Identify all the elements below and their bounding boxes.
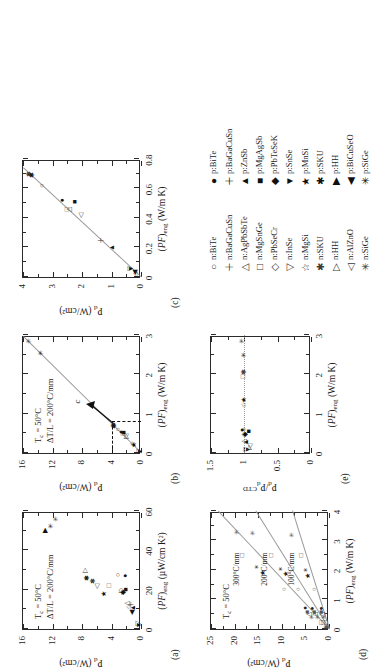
- legend-item[interactable]: ◀p:BiCuSeO: [343, 129, 358, 188]
- legend-marker-icon: ✱: [313, 260, 328, 274]
- legend-marker-icon: ●: [206, 174, 221, 188]
- legend-item[interactable]: ＋n:BaGaCuSn: [221, 215, 236, 274]
- legend-item[interactable]: ☆n:MgSi: [297, 215, 312, 274]
- legend-item[interactable]: ○n:BiTe: [206, 215, 221, 274]
- legend-item[interactable]: ◇n:PbSeCr: [267, 215, 282, 274]
- legend-item[interactable]: ▼p:SnSe: [282, 129, 297, 188]
- legend-item-label: n:MgSi: [298, 234, 313, 260]
- legend-item[interactable]: ✱p:SKU: [312, 129, 327, 188]
- legend-marker-icon: ☆: [298, 260, 313, 274]
- legend-marker-icon: ＋: [222, 260, 237, 274]
- legend-item-label: p:ZnSb: [237, 149, 252, 174]
- legend-item-label: p:BiCuSeO: [343, 134, 358, 174]
- legend-item[interactable]: ◆p:PbTeSeK: [267, 129, 282, 188]
- legend-marker-icon: ▶: [328, 174, 343, 188]
- legend-marker-icon: ▽: [282, 260, 297, 274]
- legend-item-label: n:HH: [328, 241, 343, 260]
- legend-item-label: n:BaGaCuSn: [222, 215, 237, 260]
- legend-item-label: p:BaGaCuSn: [222, 129, 237, 174]
- legend-marker-icon: ＋: [222, 174, 237, 188]
- legend-marker-icon: ▲: [237, 174, 252, 188]
- legend-marker-icon: ◁: [343, 260, 358, 274]
- legend-marker-icon: ✳: [358, 260, 373, 274]
- legend-item[interactable]: ★p:MnSi: [297, 129, 312, 188]
- legend-item-label: n:AgPbSbTe: [237, 216, 252, 260]
- legend-item-label: n:PbSeCr: [267, 227, 282, 260]
- legend-item[interactable]: ▽n:InSe: [282, 215, 297, 274]
- legend-item[interactable]: ■p:MgAgSb: [252, 129, 267, 188]
- legend-marker-icon: ★: [298, 174, 313, 188]
- legend-item[interactable]: ✱n:SKU: [312, 215, 327, 274]
- legend-marker-icon: ■: [252, 174, 267, 188]
- legend-item-label: n:SiGe: [358, 236, 373, 260]
- legend-marker-icon: ▷: [328, 260, 343, 274]
- legend-column-n-type: ○n:BiTe＋n:BaGaCuSn△n:AgPbSbTe□n:MgSnGe◇n…: [206, 215, 373, 274]
- legend-item[interactable]: ▷n:HH: [328, 215, 343, 274]
- legend-item[interactable]: ▶p:HH: [328, 129, 343, 188]
- legend-item[interactable]: ✳p:SiGe: [358, 129, 373, 188]
- legend-marker-icon: ◇: [267, 260, 282, 274]
- legend-item-label: p:MnSi: [298, 148, 313, 174]
- legend-marker-icon: ✱: [313, 174, 328, 188]
- legend-marker-icon: ✳: [358, 174, 373, 188]
- legend-item-label: p:SKU: [313, 150, 328, 174]
- legend-item-label: p:PbTeSeK: [267, 135, 282, 174]
- legend-item[interactable]: △n:AgPbSbTe: [236, 215, 251, 274]
- legend-item[interactable]: ●p:BiTe: [206, 129, 221, 188]
- legend-item[interactable]: ＋p:BaGaCuSn: [221, 129, 236, 188]
- legend-item-label: n:AlZnO: [343, 229, 358, 260]
- legend-item[interactable]: ▲p:ZnSb: [236, 129, 251, 188]
- legend-marker-icon: □: [252, 260, 267, 274]
- legend-item-label: p:SnSe: [282, 150, 297, 174]
- legend-item[interactable]: □n:MgSnGe: [252, 215, 267, 274]
- legend-marker-icon: ◆: [267, 174, 282, 188]
- legend-marker-icon: ○: [206, 260, 221, 274]
- legend-column-p-type: ●p:BiTe＋p:BaGaCuSn▲p:ZnSb■p:MgAgSb◆p:PbT…: [206, 129, 373, 188]
- legend-marker-icon: ◀: [343, 174, 358, 188]
- legend-item-label: n:InSe: [282, 238, 297, 260]
- legend-item-label: p:MgAgSb: [252, 136, 267, 174]
- legend-item-label: p:BiTe: [206, 151, 221, 174]
- legend-item[interactable]: ◁n:AlZnO: [343, 215, 358, 274]
- legend-item-label: p:HH: [328, 155, 343, 174]
- legend-marker-icon: △: [237, 260, 252, 274]
- legend-item-label: p:SiGe: [358, 150, 373, 174]
- legend-item-label: n:BiTe: [206, 237, 221, 260]
- legend-item-label: n:MgSnGe: [252, 222, 267, 260]
- legend-item[interactable]: ✳n:SiGe: [358, 215, 373, 274]
- legend-marker-icon: ▼: [282, 174, 297, 188]
- legend-item-label: n:SKU: [313, 236, 328, 260]
